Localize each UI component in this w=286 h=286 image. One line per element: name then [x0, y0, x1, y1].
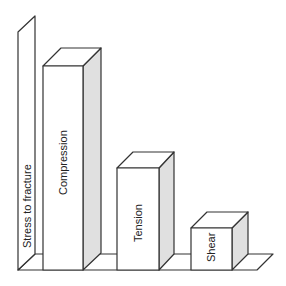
bar-label-compression: Compression	[57, 130, 69, 195]
bar-label-shear: Shear	[205, 233, 217, 262]
bar-shear	[191, 212, 248, 270]
bar-tension	[117, 152, 174, 270]
axis-label: Stress to fracture	[21, 164, 33, 248]
bar-diagram	[0, 0, 286, 286]
bar-compression	[43, 48, 101, 270]
bar-label-tension: Tension	[132, 204, 144, 242]
